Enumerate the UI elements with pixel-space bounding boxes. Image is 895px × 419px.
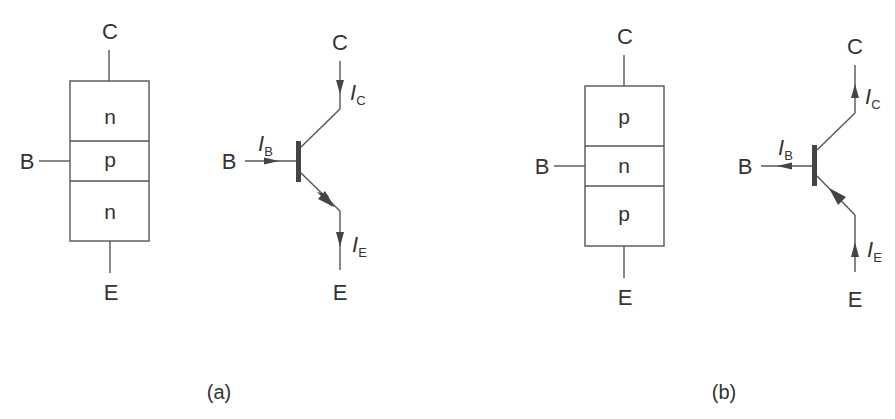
symbol-b-ic-label: IC: [865, 84, 881, 112]
pnp-block-structure: C p n p B E: [535, 24, 664, 310]
block-b-collector-label: C: [617, 24, 633, 49]
block-a-layer-collector: n: [104, 105, 116, 128]
symbol-a-collector-label: C: [332, 30, 348, 55]
emitter-current-arrow-icon: [851, 242, 859, 257]
block-a-collector-label: C: [102, 19, 118, 44]
symbol-a-base-bar: [296, 141, 301, 182]
emitter-current-arrow-icon: [336, 232, 344, 247]
npn-symbol: C IC B IB IE E: [222, 30, 367, 305]
block-b-layer-emitter: p: [618, 202, 630, 225]
caption-b: (b): [712, 381, 736, 403]
symbol-b-ie-label: IE: [867, 237, 882, 265]
block-a-layer-base: p: [104, 148, 116, 171]
caption-a: (a): [207, 381, 231, 403]
block-b-base-label: B: [535, 154, 550, 179]
base-current-arrow-icon: [777, 163, 792, 170]
symbol-b-collector-label: C: [847, 34, 863, 59]
symbol-b-base-label: B: [738, 154, 753, 179]
symbol-a-emitter-diagonal: [300, 172, 340, 211]
block-a-layer-emitter: n: [104, 200, 116, 223]
block-b-layer-base: n: [618, 154, 630, 177]
bjt-diagram: C n p n B E C IC B: [0, 0, 895, 419]
symbol-b-ib-label: IB: [778, 135, 793, 163]
symbol-b-emitter-label: E: [848, 287, 863, 312]
block-a-base-label: B: [20, 149, 35, 174]
block-a-emitter-label: E: [104, 280, 119, 305]
panel-a: C n p n B E C IC B: [20, 19, 367, 403]
block-b-emitter-label: E: [618, 285, 633, 310]
symbol-a-emitter-label: E: [333, 280, 348, 305]
block-b-layer-collector: p: [618, 105, 630, 128]
symbol-b-collector-diagonal: [817, 113, 855, 150]
symbol-a-base-label: B: [222, 149, 237, 174]
npn-block-structure: C n p n B E: [20, 19, 149, 305]
symbol-a-ib-label: IB: [258, 131, 273, 159]
panel-b: C p n p B E C IC B: [535, 24, 882, 403]
collector-current-arrow-icon: [336, 80, 344, 94]
symbol-a-ie-label: IE: [352, 232, 367, 260]
pnp-symbol: C IC B IB IE E: [738, 34, 882, 312]
symbol-a-collector-diagonal: [300, 109, 340, 148]
collector-current-arrow-icon: [851, 84, 859, 98]
symbol-a-ic-label: IC: [350, 80, 366, 108]
symbol-b-base-bar: [812, 145, 817, 186]
